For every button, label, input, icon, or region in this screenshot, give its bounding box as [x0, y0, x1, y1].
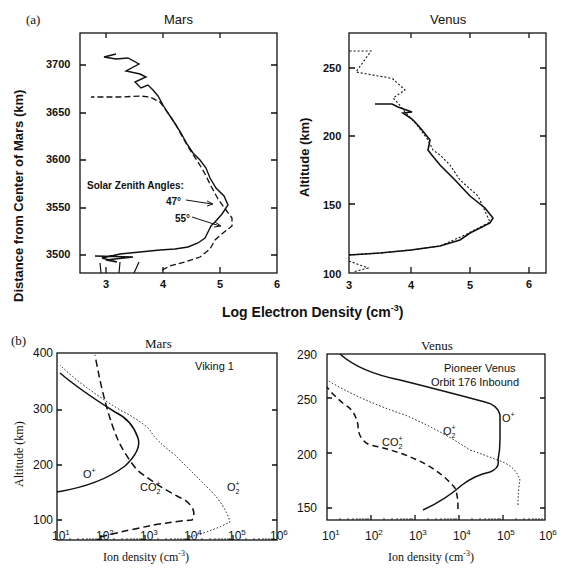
b-venus-frame	[327, 354, 545, 520]
a-mars-frame	[80, 33, 277, 273]
a-venus-frame	[349, 33, 546, 273]
figure-canvas	[0, 0, 564, 571]
b-mars-frame	[57, 353, 277, 540]
